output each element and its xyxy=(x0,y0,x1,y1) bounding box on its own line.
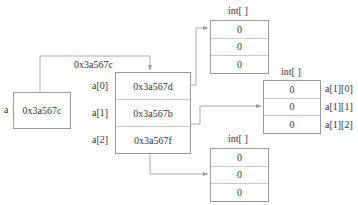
outer-array-box: 0x3a567d 0x3a567b 0x3a567f xyxy=(115,72,191,154)
inner-array-cell: 0 xyxy=(211,21,268,39)
inner-array-box-0: 0 0 0 xyxy=(210,20,269,74)
inner-array-type-label: int[ ] xyxy=(281,66,301,77)
inner-array-type-label: int[ ] xyxy=(228,133,248,144)
inner-array-cell: 0 xyxy=(211,39,268,57)
inner-array-box-1: 0 0 0 xyxy=(263,80,321,134)
inner-array-cell: 0 xyxy=(211,167,268,185)
element-label-a11: a[1][1] xyxy=(325,101,353,112)
outer-array-cell: 0x3a567b xyxy=(116,100,190,127)
variable-box: 0x3a567c xyxy=(13,92,71,129)
inner-array-cell: 0 xyxy=(264,81,320,99)
inner-array-cell: 0 xyxy=(211,149,268,167)
row-label-a0: a[0] xyxy=(92,80,108,91)
variable-value: 0x3a567c xyxy=(14,93,70,128)
element-label-a10: a[1][0] xyxy=(325,83,353,94)
row-label-a2: a[2] xyxy=(92,134,108,145)
outer-array-cell: 0x3a567d xyxy=(116,73,190,100)
inner-array-box-2: 0 0 0 xyxy=(210,148,269,202)
inner-array-cell: 0 xyxy=(264,99,320,117)
inner-array-cell: 0 xyxy=(211,184,268,201)
row-label-a1: a[1] xyxy=(92,107,108,118)
inner-array-type-label: int[ ] xyxy=(228,5,248,16)
variable-name-label: a xyxy=(4,104,8,115)
inner-array-cell: 0 xyxy=(264,116,320,133)
outer-array-cell: 0x3a567f xyxy=(116,127,190,153)
element-label-a12: a[1][2] xyxy=(325,119,353,130)
inner-array-cell: 0 xyxy=(211,56,268,73)
outer-array-address-label: 0x3a567c xyxy=(74,59,113,70)
